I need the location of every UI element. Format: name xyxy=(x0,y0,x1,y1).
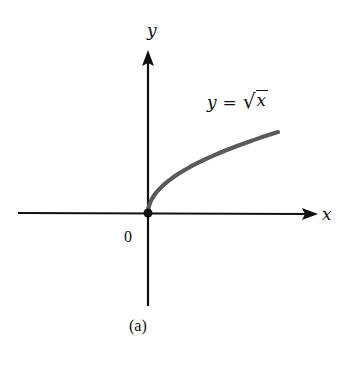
curve-equation-label: y = √ x xyxy=(207,90,268,112)
origin-label: 0 xyxy=(124,228,132,246)
equation-lhs: y xyxy=(207,92,217,112)
equation-equals: = xyxy=(223,92,237,112)
origin-point xyxy=(144,209,153,218)
x-axis-label: x xyxy=(322,204,332,224)
graph-canvas xyxy=(0,0,357,373)
y-axis-label: y xyxy=(147,20,157,40)
figure-caption: (a) xyxy=(129,317,147,335)
x-axis xyxy=(18,213,306,214)
equation-radicand: x xyxy=(256,90,269,111)
square-root: √ x xyxy=(243,90,268,111)
sqrt-curve xyxy=(148,132,278,213)
radical-sign-icon: √ xyxy=(243,91,256,111)
sqrt-function-figure: y x 0 y = √ x (a) xyxy=(0,0,357,373)
